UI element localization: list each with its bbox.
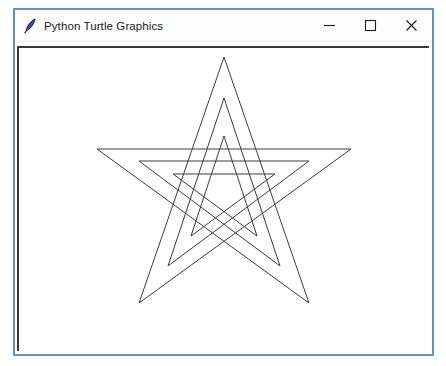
title-bar: Python Turtle Graphics <box>15 10 432 42</box>
close-icon <box>405 19 418 32</box>
turtle-canvas[interactable] <box>17 46 429 351</box>
minimize-icon <box>323 19 336 32</box>
turtle-drawing <box>19 48 431 353</box>
maximize-button[interactable] <box>350 10 391 41</box>
window-controls <box>309 10 432 41</box>
canvas-area <box>15 42 432 354</box>
page-backdrop: Python Turtle Graphics <box>0 0 446 366</box>
python-feather-icon <box>20 16 40 36</box>
minimize-button[interactable] <box>309 10 350 41</box>
window-title: Python Turtle Graphics <box>44 20 163 32</box>
star-inner <box>173 136 275 236</box>
star-outer <box>97 57 351 303</box>
turtle-graphics-window: Python Turtle Graphics <box>13 8 434 356</box>
close-button[interactable] <box>391 10 432 41</box>
maximize-icon <box>364 19 377 32</box>
